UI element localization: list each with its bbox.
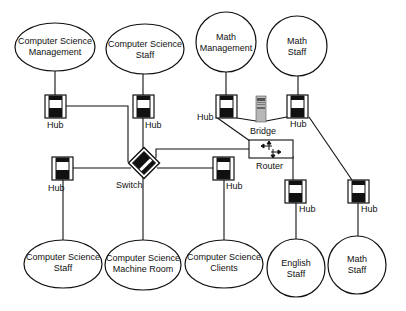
hub-cs-management-label: Hub	[47, 120, 64, 130]
node-cs-staff-top-line1: Computer Science	[108, 39, 182, 49]
hub-icon	[216, 95, 237, 118]
node-cs-staff-top-line2: Staff	[136, 50, 155, 60]
node-math-management: Math Management	[196, 12, 256, 72]
node-math-staff-top: Math Staff	[267, 16, 327, 76]
hub-math-staff-bottom-label: Hub	[361, 204, 378, 214]
node-cs-management-line1: Computer Science	[18, 36, 92, 46]
node-cs-machine-room-line1: Computer Science	[106, 253, 180, 263]
hub-cs-staff-bottom-label: Hub	[48, 183, 65, 193]
hub-cs-clients: Hub	[213, 157, 243, 191]
hub-icon	[133, 95, 154, 118]
hub-math-management: Hub	[197, 95, 237, 122]
hub-math-staff-top-label: Hub	[290, 119, 307, 129]
switch-icon	[128, 147, 159, 178]
hub-cs-staff-top-label: Hub	[145, 120, 162, 130]
node-cs-clients: Computer Science Clients	[185, 240, 263, 288]
router-label: Router	[256, 161, 283, 171]
node-cs-staff-bottom: Computer Science Staff	[24, 240, 102, 288]
hub-icon	[285, 180, 306, 203]
node-math-management-line1: Math	[216, 32, 236, 42]
node-cs-clients-line2: Clients	[210, 263, 238, 273]
node-english-staff-line1: English	[281, 258, 311, 268]
node-math-staff-bottom-line1: Math	[347, 254, 367, 264]
hub-cs-clients-label: Hub	[226, 181, 243, 191]
node-english-staff-line2: Staff	[287, 269, 306, 279]
node-cs-clients-line1: Computer Science	[187, 252, 261, 262]
hub-icon	[213, 157, 234, 180]
switch: Switch	[116, 147, 160, 190]
node-math-staff-bottom-line2: Staff	[348, 265, 367, 275]
node-cs-staff-bottom-line1: Computer Science	[26, 252, 100, 262]
node-cs-staff-top: Computer Science Staff	[106, 24, 184, 74]
node-math-staff-top-line1: Math	[287, 36, 307, 46]
node-math-staff-bottom: Math Staff	[328, 236, 386, 294]
node-english-staff: English Staff	[267, 239, 325, 297]
hub-icon	[348, 180, 369, 203]
switch-label: Switch	[116, 180, 143, 190]
hub-math-staff-top: Hub	[287, 95, 308, 129]
network-diagram: Computer Science Management Computer Sci…	[0, 0, 406, 311]
hub-cs-staff-bottom: Hub	[48, 157, 73, 193]
node-cs-machine-room-line2: Machine Room	[113, 264, 174, 274]
hub-icon	[45, 95, 66, 118]
bridge: Bridge	[250, 96, 276, 136]
hub-math-staff-bottom: Hub	[348, 180, 378, 214]
hub-english-staff-label: Hub	[299, 204, 316, 214]
node-cs-machine-room: Computer Science Machine Room	[105, 240, 181, 290]
hub-math-management-label: Hub	[197, 112, 214, 122]
bridge-icon	[256, 96, 266, 122]
node-cs-management: Computer Science Management	[15, 23, 95, 71]
node-math-management-line2: Management	[200, 43, 253, 53]
hub-icon	[287, 95, 308, 118]
hub-cs-staff-top: Hub	[133, 95, 162, 130]
router: Router	[249, 140, 293, 171]
node-math-staff-top-line2: Staff	[288, 47, 307, 57]
bridge-label: Bridge	[250, 126, 276, 136]
hub-cs-management: Hub	[45, 95, 66, 130]
hub-english-staff: Hub	[285, 180, 316, 214]
connections	[55, 71, 358, 240]
node-cs-management-line2: Management	[29, 47, 82, 57]
hub-icon	[52, 157, 73, 180]
node-cs-staff-bottom-line2: Staff	[54, 263, 73, 273]
